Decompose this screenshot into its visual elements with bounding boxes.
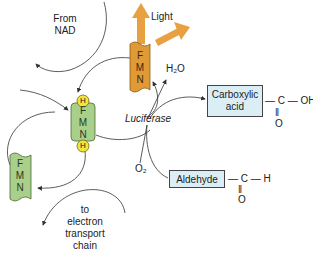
light-arrow-diagonal: [155, 22, 190, 46]
electron-transport-label: to electron transport chain: [60, 204, 110, 252]
diagram-canvas: [0, 0, 313, 256]
aldehyde-to-luciferase-arc: [147, 125, 168, 178]
light-arrow-up: [132, 3, 150, 44]
reduced-to-luciferase-arc: [96, 130, 150, 140]
fmn-oxidized-bottom-letters: F M N: [14, 158, 26, 194]
aldehyde-formula: — C — H: [228, 173, 271, 185]
aldehyde-box: Aldehyde: [169, 170, 225, 188]
nadh-arrow: [20, 90, 68, 110]
reduced-to-oxidized-arc: [38, 150, 85, 188]
aldehyde-oxygen: O: [238, 194, 246, 206]
o2-to-luciferase-line: [140, 125, 147, 163]
h-cap-top-label: H: [79, 95, 87, 107]
fmn-to-reduced-arc: [78, 58, 130, 92]
fmn-reduced-letters: F M N: [77, 105, 89, 141]
h2o-label: H₂O: [166, 63, 185, 75]
from-nad-label: From NAD: [45, 13, 85, 37]
fmn-oxidized-top-letters: F M N: [134, 50, 146, 86]
o2-label: O₂: [135, 163, 147, 175]
carboxylic-oxygen: O: [275, 118, 283, 130]
carboxylic-formula: — C — OH: [265, 95, 313, 107]
carboxylic-acid-box: Carboxylic acid: [207, 85, 263, 117]
luciferase-label: Luciferase: [125, 113, 171, 125]
h-cap-bottom-label: H: [79, 140, 87, 152]
light-label: Light: [151, 11, 173, 23]
